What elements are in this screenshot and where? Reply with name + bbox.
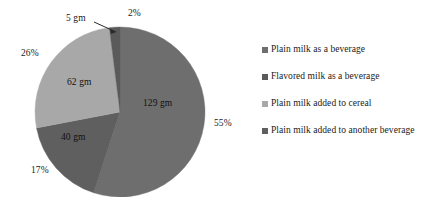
legend-swatch-icon xyxy=(262,47,268,53)
slice-value-label-another-beverage: 40 gm xyxy=(61,133,86,143)
pie-chart-plot-area: 26% 17% 55% 2% 5 gm 62 gm 129 gm 40 gm xyxy=(0,0,255,197)
legend-item-label: Plain milk as a beverage xyxy=(271,44,365,55)
pie-chart-figure: 26% 17% 55% 2% 5 gm 62 gm 129 gm 40 gm P… xyxy=(0,0,432,197)
slice-value-label-plain-beverage: 129 gm xyxy=(143,99,172,109)
slice-value-label-cereal: 62 gm xyxy=(67,78,92,88)
legend-swatch-icon xyxy=(262,128,268,134)
legend-swatch-icon xyxy=(262,101,268,107)
legend-item-plain-milk-another-beverage[interactable]: Plain milk added to another beverage xyxy=(262,125,432,136)
slice-percent-label-flavored-beverage: 2% xyxy=(128,9,141,19)
slice-percent-label-cereal: 26% xyxy=(21,49,39,59)
slice-percent-label-another-beverage: 17% xyxy=(31,166,49,176)
legend-item-plain-milk-cereal[interactable]: Plain milk added to cereal xyxy=(262,98,432,109)
legend-item-label: Plain milk added to another beverage xyxy=(271,125,414,136)
legend-item-flavored-milk-beverage[interactable]: Flavored milk as a beverage xyxy=(262,71,432,82)
chart-legend: Plain milk as a beverage Flavored milk a… xyxy=(262,44,432,136)
legend-item-label: Plain milk added to cereal xyxy=(271,98,372,109)
legend-swatch-icon xyxy=(262,74,268,80)
slice-percent-label-plain-beverage: 55% xyxy=(214,119,232,129)
pie-slice-group xyxy=(35,27,205,197)
slice-value-label-flavored-beverage: 5 gm xyxy=(66,14,86,24)
legend-item-plain-milk-beverage[interactable]: Plain milk as a beverage xyxy=(262,44,432,55)
legend-item-label: Flavored milk as a beverage xyxy=(271,71,379,82)
